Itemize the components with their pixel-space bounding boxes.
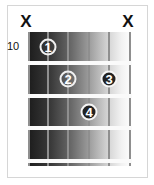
string-1 (129, 32, 131, 166)
string-4 (67, 32, 69, 166)
fret-line-4 (28, 159, 132, 163)
fret-line-3 (28, 126, 132, 130)
string-6 (28, 32, 30, 166)
muted-string-6-marker: X (20, 13, 31, 30)
finger-2-marker: 2 (60, 71, 77, 88)
finger-3-marker: 3 (101, 71, 118, 88)
fret-line-2 (28, 94, 132, 98)
finger-4-marker: 4 (81, 104, 98, 121)
fret-line-1 (28, 61, 132, 65)
muted-string-1-marker: X (122, 13, 133, 30)
start-fret-label: 10 (7, 40, 19, 52)
string-2 (108, 32, 110, 166)
string-3 (88, 32, 90, 166)
finger-1-marker: 1 (40, 39, 57, 56)
